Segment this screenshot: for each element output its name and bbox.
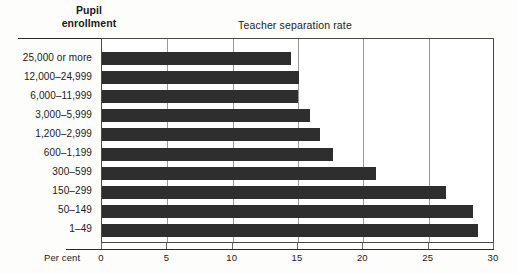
category-label: 1–49 bbox=[0, 223, 92, 235]
bar bbox=[102, 167, 376, 180]
bar bbox=[102, 71, 299, 84]
x-tick-20 bbox=[362, 243, 363, 249]
column-header-line1: Pupil bbox=[34, 4, 144, 17]
x-axis-unit-label: Per cent bbox=[44, 252, 80, 263]
bar bbox=[102, 186, 446, 199]
category-label: 1,200–2,999 bbox=[0, 128, 92, 140]
x-tick-label: 25 bbox=[413, 252, 443, 263]
category-label: 300–599 bbox=[0, 166, 92, 178]
x-tick-label: 30 bbox=[478, 252, 508, 263]
category-label: 25,000 or more bbox=[0, 52, 92, 64]
x-tick-0 bbox=[101, 243, 102, 249]
x-tick-label: 5 bbox=[151, 252, 181, 263]
x-tick-15 bbox=[297, 243, 298, 249]
column-header: Pupil enrollment bbox=[34, 4, 144, 29]
x-tick-5 bbox=[166, 243, 167, 249]
x-tick-label: 15 bbox=[282, 252, 312, 263]
bar bbox=[102, 109, 310, 122]
category-label: 6,000–11,999 bbox=[0, 90, 92, 102]
x-tick-label: 10 bbox=[217, 252, 247, 263]
x-tick-label: 20 bbox=[347, 252, 377, 263]
x-tick-label: 0 bbox=[86, 252, 116, 263]
chart-title: Teacher separation rate bbox=[188, 19, 402, 31]
x-tick-10 bbox=[232, 243, 233, 249]
bar bbox=[102, 205, 473, 218]
bar bbox=[102, 90, 298, 103]
x-tick-30 bbox=[493, 243, 494, 249]
category-label: 3,000–5,999 bbox=[0, 109, 92, 121]
chart-figure: Pupil enrollment Teacher separation rate… bbox=[0, 0, 517, 274]
bar bbox=[102, 52, 291, 65]
bar bbox=[102, 224, 478, 237]
bar bbox=[102, 128, 320, 141]
category-label: 600–1,199 bbox=[0, 147, 92, 159]
bar bbox=[102, 148, 333, 161]
x-axis-line bbox=[66, 249, 494, 250]
category-label: 50–149 bbox=[0, 204, 92, 216]
plot-area bbox=[101, 38, 494, 243]
category-label: 150–299 bbox=[0, 185, 92, 197]
column-header-line2: enrollment bbox=[34, 17, 144, 30]
category-axis-labels: 25,000 or more12,000–24,9996,000–11,9993… bbox=[0, 38, 96, 243]
category-label: 12,000–24,999 bbox=[0, 71, 92, 83]
x-tick-25 bbox=[428, 243, 429, 249]
